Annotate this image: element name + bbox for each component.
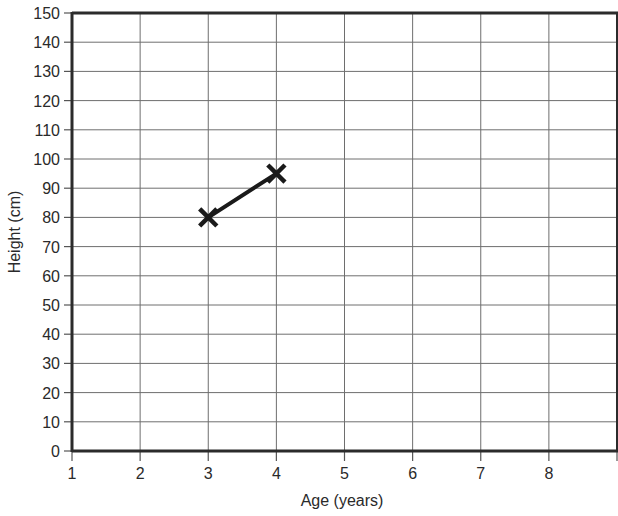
grid-lines (72, 13, 617, 451)
y-tick-label: 90 (42, 180, 60, 197)
series-line (208, 174, 276, 218)
x-tick-label: 4 (272, 465, 281, 482)
chart: 0102030405060708090100110120130140150 12… (0, 0, 618, 516)
y-tick-label: 70 (42, 239, 60, 256)
y-tick-label: 40 (42, 326, 60, 343)
x-tick-label: 7 (476, 465, 485, 482)
x-tick-label: 2 (136, 465, 145, 482)
y-tick-labels: 0102030405060708090100110120130140150 (33, 5, 60, 460)
y-tick-label: 130 (33, 63, 60, 80)
y-tick-label: 50 (42, 297, 60, 314)
y-tick-label: 140 (33, 34, 60, 51)
y-tick-label: 120 (33, 93, 60, 110)
y-tick-label: 150 (33, 5, 60, 22)
x-tick-labels: 12345678 (68, 465, 554, 482)
x-tick-label: 6 (408, 465, 417, 482)
x-axis-title: Age (years) (301, 492, 384, 509)
y-tick-label: 0 (51, 443, 60, 460)
x-tick-label: 1 (68, 465, 77, 482)
x-tick-label: 8 (544, 465, 553, 482)
y-tick-label: 30 (42, 355, 60, 372)
data-series (201, 167, 283, 225)
y-axis-title: Height (cm) (6, 191, 23, 274)
y-tick-label: 20 (42, 385, 60, 402)
y-tick-label: 60 (42, 268, 60, 285)
y-tick-label: 100 (33, 151, 60, 168)
y-tick-label: 80 (42, 209, 60, 226)
x-tick-label: 5 (340, 465, 349, 482)
x-tick-label: 3 (204, 465, 213, 482)
axis-ticks (64, 13, 617, 461)
y-tick-label: 10 (42, 414, 60, 431)
y-tick-label: 110 (34, 122, 60, 139)
